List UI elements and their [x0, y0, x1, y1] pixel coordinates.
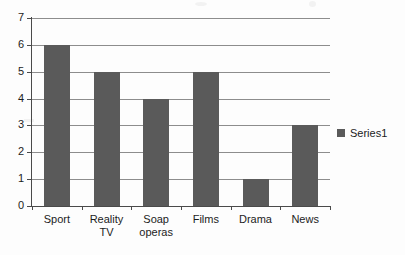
gridline	[32, 99, 330, 100]
x-axis-category-label: Films	[181, 213, 231, 226]
x-axis-tick-mark	[131, 206, 132, 210]
scan-artifact	[195, 2, 207, 6]
x-axis-category-label: Drama	[231, 213, 281, 226]
plot-area	[32, 18, 330, 206]
y-axis-tick-mark	[27, 152, 32, 153]
bar	[44, 45, 70, 206]
x-axis-tick-mark	[280, 206, 281, 210]
bar	[292, 125, 318, 206]
y-axis-tick-mark	[27, 45, 32, 46]
category-label-line: Films	[181, 213, 231, 226]
bar	[143, 99, 169, 206]
category-label-line: Drama	[231, 213, 281, 226]
bar	[94, 72, 120, 206]
gridline	[32, 45, 330, 46]
x-axis-tick-mark	[181, 206, 182, 210]
y-axis-tick-label: 4	[10, 92, 24, 105]
category-label-line: News	[280, 213, 330, 226]
y-axis-tick-mark	[27, 125, 32, 126]
bar-chart: 01234567 SportReality TVSoapoperasFilmsD…	[0, 0, 405, 255]
x-axis-tick-mark	[32, 206, 33, 210]
legend-label-series1: Series1	[350, 127, 387, 139]
y-axis-tick-label: 0	[10, 199, 24, 212]
x-axis-category-label: Sport	[32, 213, 82, 226]
y-axis-tick-label: 7	[10, 11, 24, 24]
chart-legend: Series1	[337, 127, 387, 139]
y-axis-tick-label: 5	[10, 65, 24, 78]
bar	[243, 179, 269, 206]
x-axis-tick-mark	[330, 206, 331, 210]
y-axis-tick-label: 2	[10, 145, 24, 158]
scan-artifact	[309, 1, 316, 7]
y-axis-tick-mark	[27, 179, 32, 180]
category-label-line: Reality TV	[82, 213, 132, 239]
x-axis-category-label: Soapoperas	[131, 213, 181, 239]
bar	[193, 72, 219, 206]
gridline	[32, 179, 330, 180]
x-axis-category-label: Reality TV	[82, 213, 132, 239]
y-axis-tick-mark	[27, 72, 32, 73]
gridline	[32, 18, 330, 19]
x-axis-category-label: News	[280, 213, 330, 226]
gridline	[32, 72, 330, 73]
y-axis-tick-label: 6	[10, 38, 24, 51]
gridline	[32, 125, 330, 126]
legend-swatch-series1	[337, 129, 345, 137]
y-axis-tick-label: 1	[10, 172, 24, 185]
x-axis-tick-mark	[82, 206, 83, 210]
category-label-line: Sport	[32, 213, 82, 226]
category-label-line: Soap	[131, 213, 181, 226]
y-axis-tick-mark	[27, 18, 32, 19]
y-axis-tick-mark	[27, 99, 32, 100]
x-axis-tick-mark	[231, 206, 232, 210]
category-label-line: operas	[131, 226, 181, 239]
gridline	[32, 152, 330, 153]
y-axis-tick-label: 3	[10, 118, 24, 131]
